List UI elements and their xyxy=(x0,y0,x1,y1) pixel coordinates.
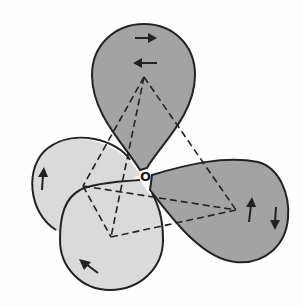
orbital-svg xyxy=(0,0,303,307)
lobe-front-bottom xyxy=(60,180,163,290)
lobe-right xyxy=(150,160,288,263)
orbital-diagram: O xyxy=(0,0,303,307)
center-atom-label: O xyxy=(140,170,151,183)
